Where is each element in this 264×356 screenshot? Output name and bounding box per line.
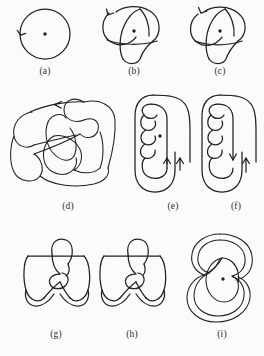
h-top-loop-left [128,254,136,274]
f-inner-top [218,104,233,160]
panel-a-unknot [14,6,76,64]
trefoil-strand-2 [116,7,159,41]
panel-i-spiral-knot [180,232,260,324]
e-outer-loop [135,95,175,192]
g-center-loop [49,273,68,289]
basepoint-dot-i [221,277,224,280]
caption-g: (g) [36,329,76,339]
panel-h-knot [98,236,174,318]
trefoil-c-strand-4 [206,9,225,59]
h-left-bottom [101,290,130,306]
basepoint-dot-e [158,134,161,137]
d-strand-vert-right [100,132,103,168]
g-left-lobe-lower [44,282,60,298]
f-twist-2 [208,115,223,130]
h-left-lobe-lower [120,282,136,298]
d-strand-top-right-hook [64,99,84,121]
i-outer-1 [220,234,252,280]
e-twist-1 [142,104,157,118]
trefoil-c-strand-6 [225,9,234,36]
panel-e-twisted-band [133,92,195,196]
d-strand-mid-4 [48,115,66,122]
panel-d-complex-knot [8,92,126,194]
e-twist-4 [141,144,156,158]
orientation-arrow-a [17,31,25,36]
h-right-bottom [136,290,165,306]
h-center-right [143,264,145,275]
f-twist-3 [208,130,222,145]
f-twist-1 [209,104,224,118]
caption-f: (f) [216,201,256,211]
g-center-right [66,264,69,276]
h-right-lobe [146,256,166,301]
e-twist-3 [141,130,155,145]
d-strand-mid-2 [34,134,80,154]
d-strand-bottom-2 [74,168,100,173]
h-center-loop [125,273,144,289]
trefoil-strand-6 [140,9,149,36]
g-top-loop [52,239,73,264]
g-top-loop-left [52,254,60,274]
caption-e: (e) [153,201,193,211]
caption-h: (h) [112,329,152,339]
d-strand-left-lower [11,136,43,181]
orientation-arrow-b [107,9,114,15]
caption-c: (c) [200,66,240,76]
h-left-lobe [100,256,120,301]
caption-d: (d) [48,201,88,211]
trefoil-strand-4 [120,9,140,59]
f-twist-4 [208,144,223,158]
f-inner-bottom [209,158,233,178]
e-twist-2 [141,115,156,130]
g-right-lobe [70,256,90,301]
f-outer-loop [202,95,242,192]
knot-diagram-figure: (a) (b) [0,0,264,356]
d-strand-right-arc [84,101,115,168]
caption-i: (i) [202,329,242,339]
g-left-bottom [25,290,54,306]
basepoint-dot-b [132,29,135,32]
h-top-loop [128,239,149,264]
g-left-lobe [24,256,44,301]
orientation-arrow-d [55,102,62,109]
panel-b-trefoil [98,4,170,66]
d-strand-right-hook2 [80,119,98,138]
d-strand-outer-left [14,112,34,147]
basepoint-dot-a [43,32,46,35]
d-strand-mid-1 [34,135,76,145]
panel-f-twisted-band-antiparallel [200,92,260,196]
basepoint-dot-c [218,29,221,32]
caption-b: (b) [114,66,154,76]
e-inner-bottom [142,158,167,178]
caption-a: (a) [25,66,65,76]
panel-c-trefoil-mirror [184,4,256,66]
i-cross-3 [232,276,238,282]
panel-g-knot [22,236,98,318]
g-right-bottom [60,290,89,306]
d-strand-mid-5 [70,128,76,156]
